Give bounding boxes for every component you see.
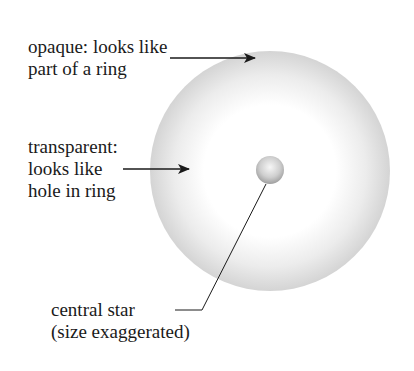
opaque-label-line2: part of a ring — [28, 58, 167, 80]
transparent-label-line2: looks like — [28, 158, 118, 180]
transparent-label: transparent: looks like hole in ring — [28, 136, 118, 202]
opaque-label-line1: opaque: looks like — [28, 36, 167, 58]
central-star-label: central star (size exaggerated) — [51, 299, 190, 343]
transparent-label-line3: hole in ring — [28, 180, 118, 202]
central-star — [256, 156, 284, 184]
opaque-label: opaque: looks like part of a ring — [28, 36, 167, 80]
central-star-label-line2: (size exaggerated) — [51, 321, 190, 343]
central-star-label-line1: central star — [51, 299, 190, 321]
transparent-label-line1: transparent: — [28, 136, 118, 158]
